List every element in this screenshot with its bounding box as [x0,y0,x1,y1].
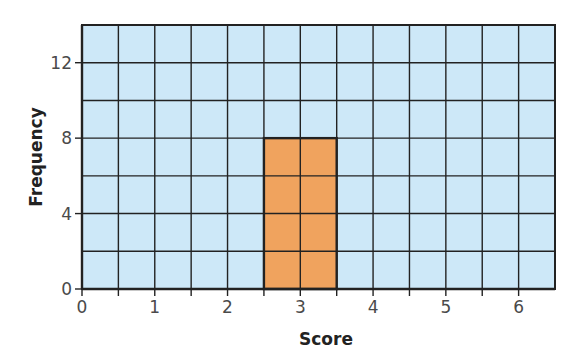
x-tick-label: 1 [149,297,160,317]
y-tick-label: 8 [61,128,72,148]
x-tick-label: 2 [222,297,233,317]
y-tick-label: 0 [61,279,72,299]
x-tick-label: 0 [77,297,88,317]
x-tick-label: 6 [513,297,524,317]
x-tick-label: 5 [440,297,451,317]
y-axis-title: Frequency [26,107,46,207]
x-axis-ticks: 0123456 [77,289,524,317]
x-tick-label: 3 [295,297,306,317]
histogram-chart: 0123456 04812 Score Frequency [0,0,571,358]
x-tick-label: 4 [368,297,379,317]
y-tick-label: 4 [61,204,72,224]
y-axis-ticks: 04812 [50,53,82,299]
y-tick-label: 12 [50,53,72,73]
x-axis-title: Score [299,329,353,349]
